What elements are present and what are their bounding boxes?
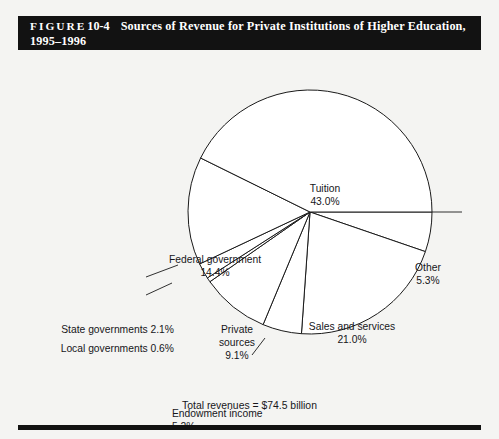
- slice-label-other-value: 5.3%: [396, 274, 460, 287]
- slice-label-private-name: Private: [221, 324, 253, 335]
- bottom-rule: [18, 425, 481, 430]
- figure-label-word: FIGURE: [30, 20, 86, 32]
- figure-title-line-1: Sources of Revenue for Private Instituti…: [121, 19, 466, 33]
- slice-label-other-name: Other: [415, 262, 441, 273]
- figure-title-line-2: 1995–1996: [30, 34, 473, 49]
- leader-line-local: [146, 283, 172, 295]
- figure-title-banner: FIGURE10-4Sources of Revenue for Private…: [18, 16, 481, 50]
- slice-label-private-sources: Private sources 9.1%: [208, 323, 266, 362]
- pie-chart: Tuition 43.0% Other 5.3% Sales and servi…: [0, 50, 499, 405]
- slice-label-local-governments: Local governments 0.6%: [38, 342, 174, 355]
- pie-slices: [188, 90, 432, 334]
- slice-label-private-name2: sources: [208, 336, 266, 349]
- slice-label-tuition-value: 43.0%: [280, 195, 370, 208]
- figure-page: FIGURE10-4Sources of Revenue for Private…: [0, 0, 499, 439]
- slice-label-sales-name: Sales and services: [309, 321, 395, 332]
- slice-label-sales-and-services: Sales and services 21.0%: [302, 320, 402, 346]
- slice-label-federal-value: 14.4%: [156, 266, 274, 279]
- slice-label-federal-government: Federal government 14.4%: [156, 253, 274, 279]
- slice-label-other: Other 5.3%: [396, 261, 460, 287]
- slice-label-tuition-name: Tuition: [310, 183, 341, 194]
- slice-label-sales-value: 21.0%: [302, 333, 402, 346]
- slice-label-state-governments: State governments 2.1%: [38, 323, 174, 336]
- slice-label-tuition: Tuition 43.0%: [280, 182, 370, 208]
- slice-label-federal-name: Federal government: [169, 254, 261, 265]
- total-revenues-note: Total revenues = $74.5 billion: [0, 400, 499, 411]
- figure-number: 10-4: [87, 19, 109, 33]
- slice-label-private-value: 9.1%: [208, 349, 266, 362]
